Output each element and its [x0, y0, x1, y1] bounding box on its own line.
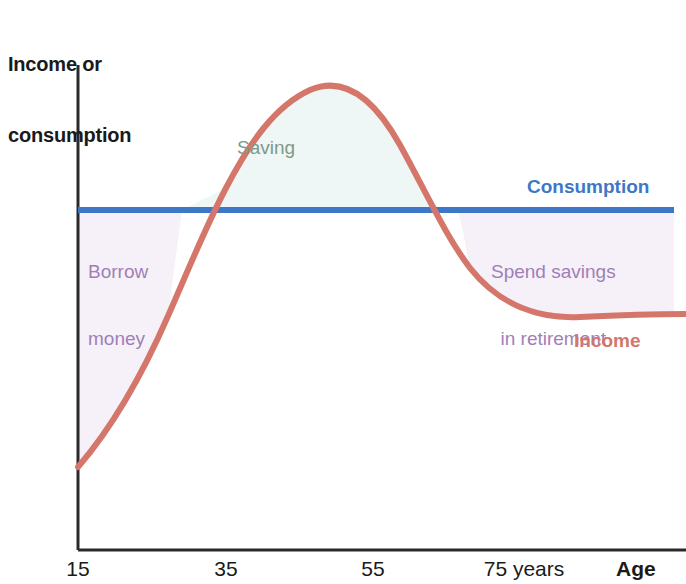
x-tick-label-75-years: 75 years — [484, 557, 565, 581]
annotation-spend-savings: Spend savings in retirement — [491, 216, 616, 395]
annotation-saving: Saving — [237, 137, 295, 159]
y-axis-title: Income or consumption — [8, 6, 131, 195]
annotation-borrow-money-line2: money — [88, 328, 148, 350]
annotation-spend-savings-line1: Spend savings — [491, 261, 616, 283]
y-axis-title-line1: Income or — [8, 53, 131, 77]
annotation-borrow-money: Borrow money — [88, 216, 148, 395]
annotation-income: Income — [574, 330, 641, 352]
income-consumption-lifecycle-chart: Income or consumption Borrow money Savin… — [0, 0, 686, 584]
x-tick-label-55: 55 — [361, 557, 384, 581]
x-tick-label-15: 15 — [66, 557, 89, 581]
y-axis-title-line2: consumption — [8, 124, 131, 148]
x-tick-label-35: 35 — [214, 557, 237, 581]
annotation-borrow-money-line1: Borrow — [88, 261, 148, 283]
annotation-consumption: Consumption — [527, 176, 649, 198]
x-axis-title: Age — [616, 557, 656, 581]
